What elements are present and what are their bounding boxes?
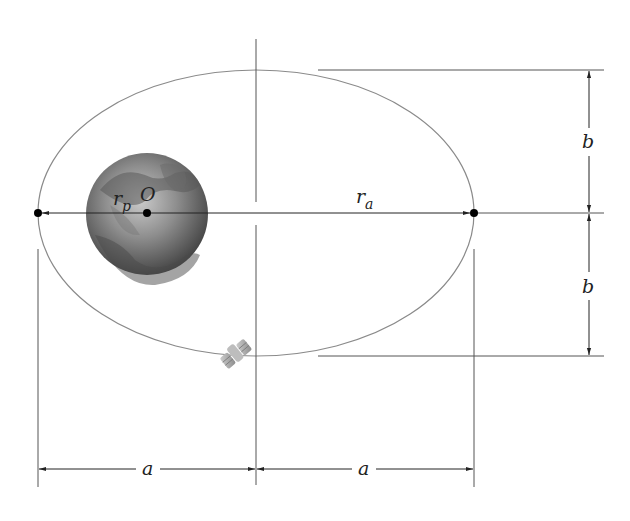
label-a-right: a (358, 457, 369, 479)
periapsis-point (34, 209, 42, 217)
label-ra: ra (356, 185, 373, 212)
label-b-upper: b (582, 130, 594, 152)
orbit-diagram: rp O ra b b a a (0, 0, 630, 521)
label-a-left: a (142, 457, 153, 479)
label-focus-O: O (140, 183, 156, 205)
satellite-icon (218, 336, 253, 370)
apoapsis-point (470, 209, 478, 217)
focus-point (143, 209, 151, 217)
label-b-lower: b (582, 275, 594, 297)
earth-icon (86, 153, 208, 285)
